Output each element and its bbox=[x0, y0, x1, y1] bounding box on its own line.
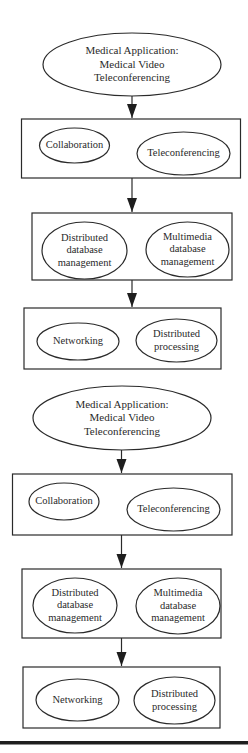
node-distributed-processing-2: Distributed processing bbox=[134, 677, 215, 724]
root-node-label-1: Medical Application: Medical Video Telec… bbox=[43, 33, 221, 96]
node-teleconferencing-2: Teleconferencing bbox=[127, 488, 220, 531]
node-collaboration: Collaboration bbox=[39, 128, 110, 163]
node-networking: Networking bbox=[37, 323, 119, 360]
node-teleconferencing: Teleconferencing bbox=[137, 132, 230, 175]
node-distributed-processing: Distributed processing bbox=[136, 319, 217, 362]
node-distributed-database-management: Distributed database management bbox=[42, 222, 127, 279]
diagram-canvas: Medical Application: Medical Video Telec… bbox=[0, 0, 248, 753]
footer-rule bbox=[0, 741, 248, 745]
node-multimedia-database-management-2: Multimedia database management bbox=[136, 578, 220, 634]
root-node-label-2: Medical Application: Medical Video Telec… bbox=[33, 386, 211, 450]
node-multimedia-database-management: Multimedia database management bbox=[146, 222, 229, 277]
node-networking-2: Networking bbox=[36, 679, 119, 721]
node-distributed-database-management-2: Distributed database management bbox=[33, 578, 117, 633]
diagram-shapes bbox=[0, 0, 248, 753]
node-collaboration-2: Collaboration bbox=[29, 483, 99, 520]
